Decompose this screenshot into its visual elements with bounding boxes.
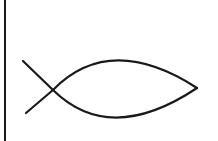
left-border-line [4, 0, 6, 141]
fish-upper-curve [23, 60, 197, 90]
fish-symbol-icon [0, 0, 218, 141]
fish-lower-curve [26, 88, 197, 118]
figure-canvas: ichthys fish symbol [0, 0, 218, 141]
